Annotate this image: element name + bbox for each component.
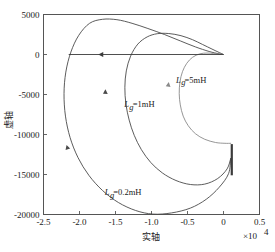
x-tick-label: -1.5 [108,217,123,227]
x-tick-label: -2.0 [72,217,87,227]
y-tick-label: -5000 [19,90,40,100]
curve-label-value-0: =0.2mH [113,187,141,197]
y-tick-label: -20000 [14,210,40,220]
y-axis-title: 虚轴 [3,111,14,129]
curve-label-value-2: =5mH [185,75,207,85]
x-tick-label: -1.0 [144,217,159,227]
root-locus-chart: -2.5-2.0-1.5-1.0-0.500.5 50000-5000-1000… [0,0,275,252]
x-axis-title: 实轴 [142,231,160,242]
curve-label-symbol-0: L [104,187,110,197]
curve-label-value-1: =1mH [133,99,155,109]
x-tick-label: -0.5 [180,217,195,227]
figure-root: -2.5-2.0-1.5-1.0-0.500.5 50000-5000-1000… [0,0,275,252]
y-tick-label: -15000 [14,170,40,180]
x-tick-label: 0 [221,217,226,227]
x-axis-multiplier-base: ×10 [243,231,258,241]
y-tick-label: -10000 [14,130,40,140]
curve-label-symbol-2: L [175,75,181,85]
y-tick-label: 5000 [22,10,41,20]
curve-label-symbol-1: L [123,99,129,109]
x-tick-label: 0.5 [254,217,266,227]
y-tick-label: 0 [35,50,40,60]
x-axis-multiplier-exponent: 4 [264,227,269,237]
